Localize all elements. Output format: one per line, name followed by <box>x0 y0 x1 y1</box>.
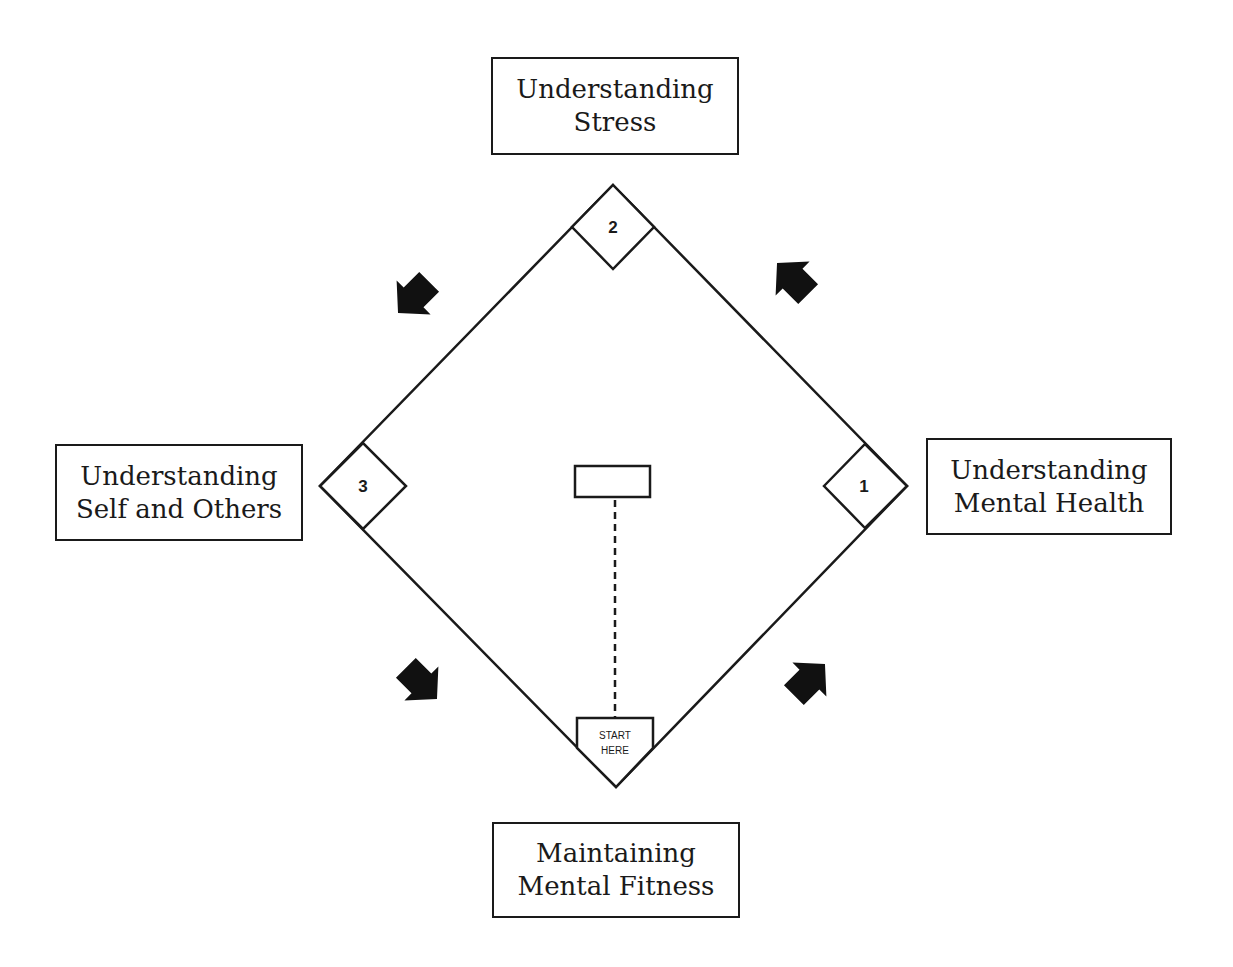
second-base: 2 <box>572 185 654 269</box>
arrow-down-left-icon <box>381 265 446 330</box>
third-base: 3 <box>320 443 406 529</box>
home-plate-line2: HERE <box>601 745 629 756</box>
arrow-down-right-icon <box>389 651 454 716</box>
first-base: 1 <box>824 444 907 528</box>
home-plate-line1: START <box>599 730 631 741</box>
second-base-number: 2 <box>608 218 617 237</box>
baseball-diamond-diagram: 2 3 1 START HERE <box>0 0 1233 967</box>
first-base-number: 1 <box>859 477 868 496</box>
pitchers-mound <box>575 466 650 497</box>
third-base-number: 3 <box>358 477 367 496</box>
arrow-up-left-icon <box>760 246 825 311</box>
home-plate: START HERE <box>577 718 653 787</box>
arrow-up-right-icon <box>777 647 842 712</box>
